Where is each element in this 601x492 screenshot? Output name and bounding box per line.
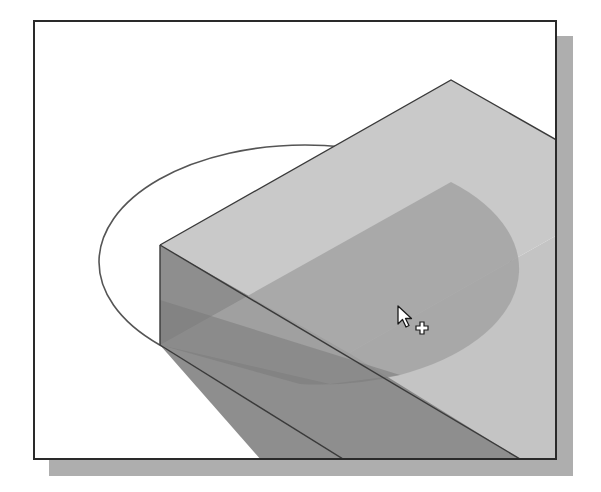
- cad-viewport[interactable]: [0, 0, 601, 492]
- model-graphics[interactable]: [33, 20, 557, 460]
- cursor-arrow-plus-icon: [396, 304, 432, 344]
- graphics-window[interactable]: [33, 20, 557, 460]
